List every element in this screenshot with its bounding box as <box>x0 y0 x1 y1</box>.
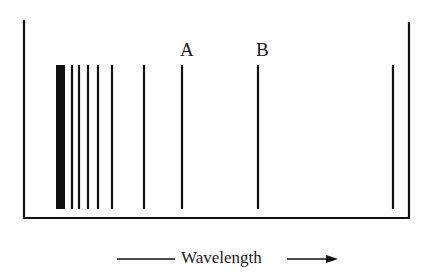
line-label-b: B <box>256 40 269 59</box>
wavelength-axis-label: Wavelength <box>181 249 262 266</box>
container-outline <box>24 20 409 218</box>
spectrum-diagram <box>0 0 432 278</box>
spectral-lines <box>56 65 393 209</box>
container-walls <box>24 20 409 218</box>
line-label-a: A <box>180 40 194 59</box>
arrow-head-icon <box>326 255 338 263</box>
thick-band <box>56 65 65 209</box>
